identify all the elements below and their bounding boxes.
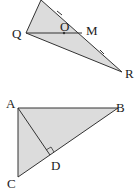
- geometry-diagram: Q O M R A B C D: [0, 0, 136, 190]
- triangle-abc-figure: A B C D: [6, 96, 125, 190]
- label-o: O: [60, 19, 69, 34]
- label-m: M: [86, 23, 98, 38]
- label-r: R: [125, 66, 134, 81]
- label-d: D: [51, 158, 60, 173]
- label-c: C: [7, 176, 16, 190]
- triangle-bottom-fill: [18, 108, 118, 177]
- label-b: B: [116, 100, 125, 115]
- label-q: Q: [12, 26, 22, 41]
- label-a: A: [6, 96, 16, 111]
- triangle-top-fill: [26, 0, 122, 72]
- triangle-qr-figure: Q O M R: [12, 0, 134, 81]
